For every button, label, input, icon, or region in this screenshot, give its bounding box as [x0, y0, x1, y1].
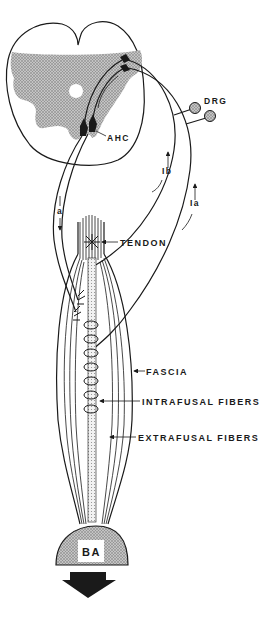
dorsal-root-ganglia: DRG — [174, 96, 227, 124]
tendon-label: TENDON — [120, 238, 167, 248]
spinal-cord — [6, 22, 144, 165]
ahc-pointer — [96, 131, 106, 136]
tendon — [78, 215, 104, 262]
central-canal — [69, 84, 83, 98]
ia-direction-tail — [182, 214, 192, 230]
drg-ganglion-2 — [205, 111, 216, 122]
drg-stalk-2 — [186, 118, 206, 124]
drg-label: DRG — [204, 96, 227, 106]
extrafusal-fiber — [102, 260, 118, 524]
intrafusal-label: INTRAFUSAL FIBERS — [142, 397, 259, 407]
spinal-reflex-diagram: AHC DRG Ib Ia a — [0, 0, 259, 622]
ahc-label: AHC — [107, 133, 130, 143]
a-label: a — [57, 206, 63, 216]
ib-label: Ib — [162, 166, 173, 176]
extrafusal-fiber — [64, 258, 82, 524]
extrafusal-fiber — [100, 262, 113, 524]
force-arrow — [62, 572, 116, 598]
ia-label: Ia — [190, 198, 200, 208]
extrafusal-label: EXTRAFUSAL FIBERS — [138, 433, 259, 443]
bone-attachment: BA — [56, 526, 128, 565]
drg-ganglion-1 — [190, 103, 201, 114]
intrafusal-core — [88, 258, 96, 522]
muscle-belly — [57, 254, 133, 524]
ba-label: BA — [82, 546, 101, 558]
golgi-tendon-organ — [84, 234, 100, 250]
fascia-label: FASCIA — [146, 367, 188, 377]
ib-direction-tail — [152, 180, 162, 192]
